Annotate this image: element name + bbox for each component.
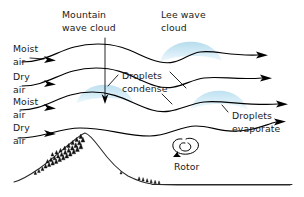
mountain-wave-diagram: Mountain wave cloud Lee wave cloud Moist…	[0, 0, 304, 197]
mountain-wave-cloud-label-line1: Mountain	[62, 9, 106, 20]
dry-air-1-label-line2: air	[13, 84, 25, 95]
flow-arrow-dry-2	[44, 130, 56, 137]
droplets-condense-label-line1: Droplets	[122, 70, 162, 81]
streamline-1	[22, 44, 258, 63]
mountain-wave-cloud-label-line2: wave cloud	[62, 22, 116, 33]
moist-air-1-label-line1: Moist	[13, 43, 39, 54]
text-label-group: Mountain wave cloud Lee wave cloud Moist…	[13, 9, 280, 172]
flow-arrow-dry-1	[44, 80, 56, 87]
flow-arrow-moist-2	[44, 104, 56, 111]
terrain-group	[14, 133, 292, 185]
dry-air-1-label-line1: Dry	[13, 71, 30, 82]
moist-air-1-label-line2: air	[13, 56, 25, 67]
forest-valley	[120, 171, 160, 183]
lee-wave-cloud-label-line1: Lee wave	[161, 9, 206, 20]
droplets-evaporate-label-line2: evaporate	[232, 123, 280, 134]
rotor-swirl-outer	[173, 138, 199, 154]
diagram-canvas: Mountain wave cloud Lee wave cloud Moist…	[0, 0, 304, 197]
lee-wave-cloud-label-line2: cloud	[161, 22, 187, 33]
leader-condense-right-2	[162, 94, 172, 104]
inline-flow-arrows	[44, 56, 56, 137]
leader-evaporate	[222, 105, 228, 112]
droplets-evaporate-label-line1: Droplets	[232, 110, 272, 121]
moist-air-2-label-line2: air	[13, 109, 25, 120]
secondary-lee-cloud-shape	[190, 91, 248, 110]
dry-air-2-label-line1: Dry	[13, 122, 30, 133]
rotor-label: Rotor	[174, 161, 199, 172]
rotor-swirl-inner	[180, 143, 191, 151]
flow-arrow-moist-1	[44, 56, 56, 63]
moist-air-2-label-line1: Moist	[13, 96, 39, 107]
droplets-condense-label-line2: condense	[122, 83, 168, 94]
leader-condense-left	[108, 75, 118, 86]
rotor-group	[173, 138, 199, 157]
dry-air-2-label-line2: air	[13, 135, 25, 146]
forest-windward	[34, 134, 85, 174]
cloud-group	[76, 42, 248, 110]
leader-left-moist-1	[30, 58, 44, 59]
